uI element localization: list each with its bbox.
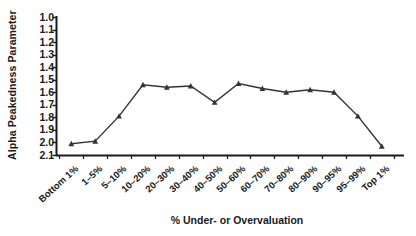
chart-figure: Alpha Peakedness Parameter 1.01.11.21.31…	[0, 0, 416, 236]
x-axis-tick-labels: Bottom 1%1–5%5–10%10–20%20–30%30–40%40–5…	[0, 155, 416, 215]
x-axis-label-container: % Under- or Overvaluation	[0, 214, 416, 226]
axes	[53, 16, 405, 159]
series-markers	[68, 81, 384, 149]
x-axis-label: % Under- or Overvaluation	[113, 214, 303, 226]
data-series	[68, 81, 384, 149]
